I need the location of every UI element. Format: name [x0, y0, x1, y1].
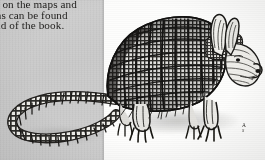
armadillo-illustration — [0, 0, 265, 160]
armadillo-tail — [12, 92, 116, 146]
caption-line-2: S — [242, 128, 264, 134]
scanned-page: es on the maps and ons can be found end … — [0, 0, 265, 160]
figure-caption: A S — [242, 122, 264, 134]
